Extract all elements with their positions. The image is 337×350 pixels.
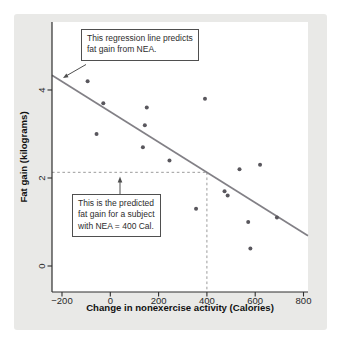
x-tick-label: −200	[51, 295, 72, 306]
scatter-point	[141, 145, 145, 149]
x-axis-title: Change in nonexercise activity (Calories…	[86, 302, 274, 313]
scatter-point	[258, 163, 262, 167]
scatter-point	[95, 132, 99, 136]
scatter-point	[86, 79, 90, 83]
prediction-callout-arrowhead	[118, 177, 123, 183]
scatter-point	[275, 216, 279, 220]
regression-callout-arrowhead	[63, 74, 69, 78]
regression-callout: This regression line predicts fat gain f…	[81, 29, 199, 61]
scatter-point	[167, 158, 171, 162]
regression-callout-leader	[66, 65, 86, 77]
scatter-point	[143, 123, 147, 127]
scatter-point	[226, 194, 230, 198]
figure-page: −2000200400600800 024 Change in nonexerc…	[0, 0, 337, 350]
y-tick-label: 4	[36, 87, 47, 92]
prediction-callout: This is the predicted fat gain for a sub…	[72, 194, 161, 237]
y-tick-label: 2	[36, 175, 47, 180]
y-tick-label: 0	[36, 263, 47, 268]
scatter-point	[203, 97, 207, 101]
scatter-point	[223, 189, 227, 193]
x-tick-label: 800	[296, 295, 312, 306]
scatter-point	[194, 207, 198, 211]
scatter-point	[101, 101, 105, 105]
scatter-point	[248, 246, 252, 250]
y-axis-title: Fat gain (kilograms)	[18, 111, 29, 202]
scatter-point	[246, 220, 250, 224]
scatter-point	[145, 106, 149, 110]
scatter-point	[238, 167, 242, 171]
